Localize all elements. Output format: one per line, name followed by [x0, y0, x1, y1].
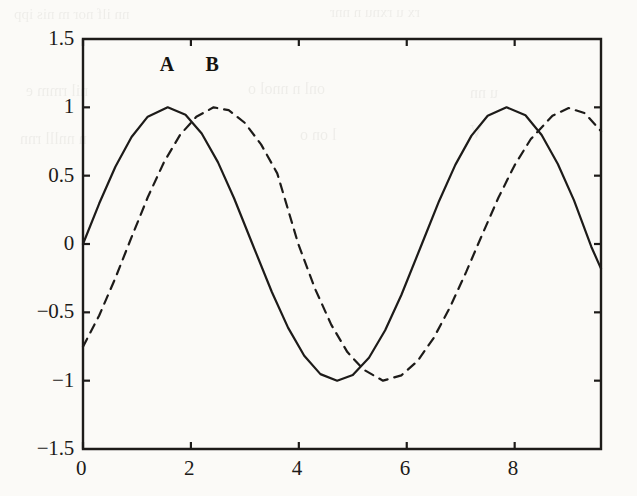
series-curves — [83, 107, 601, 380]
y-tick-label: −1 — [52, 370, 74, 391]
y-tick-label: 1.5 — [48, 28, 74, 49]
x-tick-label: 4 — [292, 458, 302, 479]
axes-frame — [83, 39, 601, 449]
y-tick-label: −0.5 — [37, 301, 74, 322]
x-tick-label: 2 — [184, 458, 194, 479]
y-tick-label: −1.5 — [37, 438, 74, 459]
curve-label-b: B — [206, 54, 219, 74]
axes-box — [83, 39, 601, 449]
curve-label-a: A — [160, 54, 174, 74]
curve-b — [83, 107, 601, 380]
x-tick-label: 0 — [76, 458, 86, 479]
y-tick-label: 0.5 — [48, 165, 74, 186]
axis-ticks — [83, 39, 601, 449]
x-tick-label: 6 — [400, 458, 410, 479]
plot-area — [0, 0, 637, 496]
figure-page: nn ilf nor m nis ipprx u rxnu n nnrnil r… — [0, 0, 637, 496]
chart-svg — [0, 0, 637, 496]
curve-a — [83, 107, 601, 380]
y-tick-label: 0 — [64, 233, 74, 254]
x-tick-label: 8 — [508, 458, 518, 479]
y-tick-label: 1 — [64, 96, 74, 117]
